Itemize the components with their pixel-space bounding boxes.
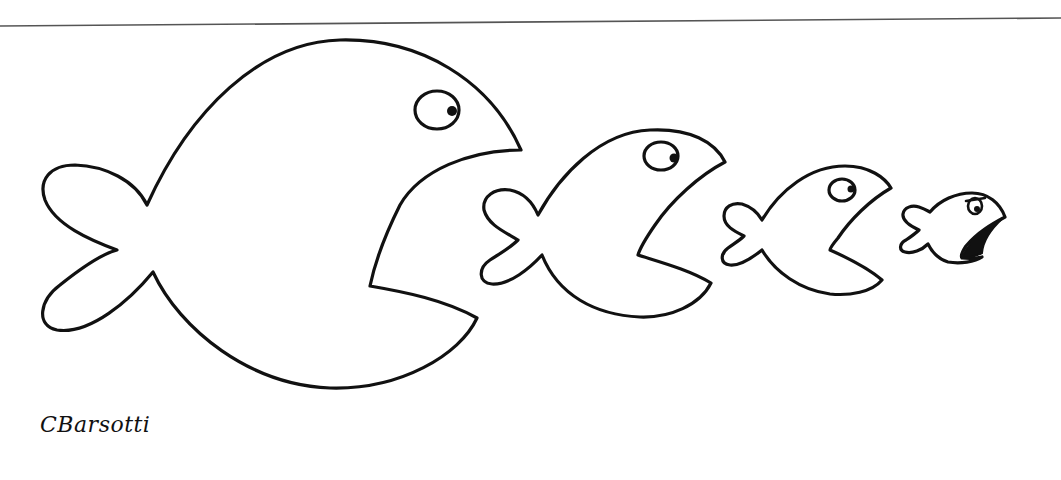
fish-small — [722, 166, 891, 294]
fish-medium-outline — [481, 130, 725, 317]
fish-small-pupil — [848, 186, 855, 193]
fish-large-outline — [43, 40, 521, 388]
fish-large — [43, 40, 521, 388]
fish-large-pupil — [447, 106, 457, 116]
fish-medium — [481, 130, 725, 317]
fish-small-outline — [722, 166, 891, 294]
fish-medium-pupil — [670, 154, 679, 163]
fish-tiny-pupil — [974, 206, 980, 212]
cartoon-drawing — [0, 0, 1061, 480]
cartoon-canvas: CBarsotti — [0, 0, 1061, 480]
top-rule-line — [0, 18, 1061, 26]
artist-signature: CBarsotti — [40, 412, 150, 437]
fish-tiny — [901, 193, 1005, 263]
